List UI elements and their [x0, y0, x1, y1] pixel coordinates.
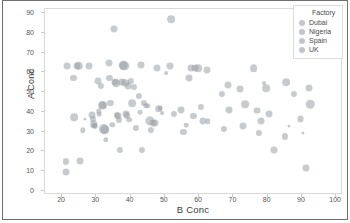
- x-tick-mark: [301, 194, 302, 197]
- scatter-point: [180, 129, 186, 135]
- x-tick-label: 80: [252, 196, 282, 203]
- x-tick-mark: [130, 194, 131, 197]
- scatter-point: [100, 125, 109, 134]
- x-tick-label: 50: [149, 196, 179, 203]
- y-tick-label: 30: [0, 127, 34, 134]
- x-tick-mark: [198, 194, 199, 197]
- scatter-point: [119, 61, 128, 70]
- scatter-point: [109, 122, 114, 127]
- x-tick-label: 20: [46, 196, 76, 203]
- scatter-point: [107, 100, 113, 106]
- scatter-point: [88, 111, 95, 118]
- scatter-point: [92, 123, 98, 129]
- scatter-point: [116, 117, 122, 123]
- scatter-point: [75, 61, 84, 70]
- scatter-point: [135, 93, 141, 99]
- scatter-point: [80, 128, 85, 133]
- scatter-point: [128, 78, 134, 84]
- scatter-point: [178, 107, 185, 114]
- scatter-point: [226, 107, 233, 114]
- scatter-point: [167, 15, 175, 23]
- scatter-point: [185, 75, 192, 82]
- scatter-point: [241, 100, 249, 108]
- x-tick-mark: [95, 194, 96, 197]
- legend-marker-icon: [299, 29, 305, 35]
- legend-title: Factory: [312, 9, 336, 16]
- scatter-point: [145, 116, 154, 125]
- scatter-point: [94, 78, 101, 85]
- scatter-point: [154, 64, 161, 71]
- scatter-point: [106, 75, 112, 81]
- scatter-point: [301, 131, 304, 134]
- scatter-point: [262, 81, 266, 85]
- y-tick-label: 70: [0, 48, 34, 55]
- scatter-point: [219, 91, 225, 97]
- y-tick-label: 90: [0, 8, 34, 15]
- x-axis-title: B Conc: [44, 204, 342, 215]
- x-tick-mark: [232, 194, 233, 197]
- scatter-point: [73, 62, 80, 69]
- scatter-point: [203, 67, 210, 74]
- scatter-point: [224, 81, 231, 88]
- scatter-point: [287, 124, 290, 127]
- legend-item-uk[interactable]: UK: [299, 45, 336, 54]
- legend-marker-icon: [299, 38, 305, 44]
- scatter-point: [282, 133, 288, 139]
- scatter-point: [138, 110, 143, 115]
- x-tick-mark: [164, 194, 165, 197]
- legend-item-dubai[interactable]: Dubai: [299, 18, 336, 27]
- scatter-point: [236, 85, 243, 92]
- scatter-point: [114, 112, 120, 118]
- scatter-point: [120, 61, 129, 70]
- legend-item-label: Dubai: [309, 19, 327, 26]
- scatter-point: [122, 111, 129, 118]
- scatter-point: [77, 158, 84, 165]
- scatter-point: [131, 84, 137, 90]
- scatter-point: [184, 123, 189, 128]
- legend-item-nigeria[interactable]: Nigeria: [299, 27, 336, 36]
- scatter-point: [152, 120, 159, 127]
- x-tick-mark: [335, 194, 336, 197]
- scatter-point: [148, 127, 154, 133]
- scatter-point: [90, 116, 96, 122]
- y-tick-label: 20: [0, 147, 34, 154]
- scatter-point: [291, 91, 297, 97]
- scatter-point: [114, 113, 121, 120]
- x-tick-mark: [61, 194, 62, 197]
- scatter-point: [303, 165, 310, 172]
- chart-screenshot: A Conc B Conc 0102030405060708090 203040…: [0, 0, 350, 223]
- scatter-point: [199, 117, 206, 124]
- scatter-point: [143, 103, 148, 108]
- scatter-point: [124, 112, 130, 118]
- scatter-point: [112, 79, 120, 87]
- scatter-point: [111, 79, 118, 86]
- scatter-point: [145, 103, 150, 108]
- y-axis-title: A Conc: [26, 54, 36, 114]
- legend-item-spain[interactable]: Spain: [299, 36, 336, 45]
- scatter-point: [63, 158, 69, 164]
- scatter-point: [96, 109, 101, 114]
- x-tick-label: 40: [115, 196, 145, 203]
- scatter-point: [92, 123, 97, 128]
- scatter-point: [138, 61, 145, 68]
- scatter-point: [111, 25, 118, 32]
- scatter-point: [192, 64, 199, 71]
- scatter-point: [239, 122, 246, 129]
- scatter-point: [190, 113, 196, 119]
- scatter-point: [83, 117, 86, 120]
- scatter-point: [197, 104, 203, 110]
- y-tick-label: 50: [0, 88, 34, 95]
- scatter-point: [70, 114, 78, 122]
- scatter-point: [306, 84, 313, 91]
- scatter-point: [105, 60, 112, 67]
- scatter-point: [85, 62, 92, 69]
- legend-entries: DubaiNigeriaSpainUK: [299, 18, 336, 54]
- scatter-point: [250, 64, 258, 72]
- legend[interactable]: Factory DubaiNigeriaSpainUK: [293, 5, 343, 59]
- scatter-point: [99, 101, 107, 109]
- scatter-point: [171, 111, 177, 117]
- x-tick-label: 100: [320, 196, 350, 203]
- scatter-point: [221, 126, 227, 132]
- scatter-point: [121, 79, 129, 87]
- scatter-point: [150, 120, 157, 127]
